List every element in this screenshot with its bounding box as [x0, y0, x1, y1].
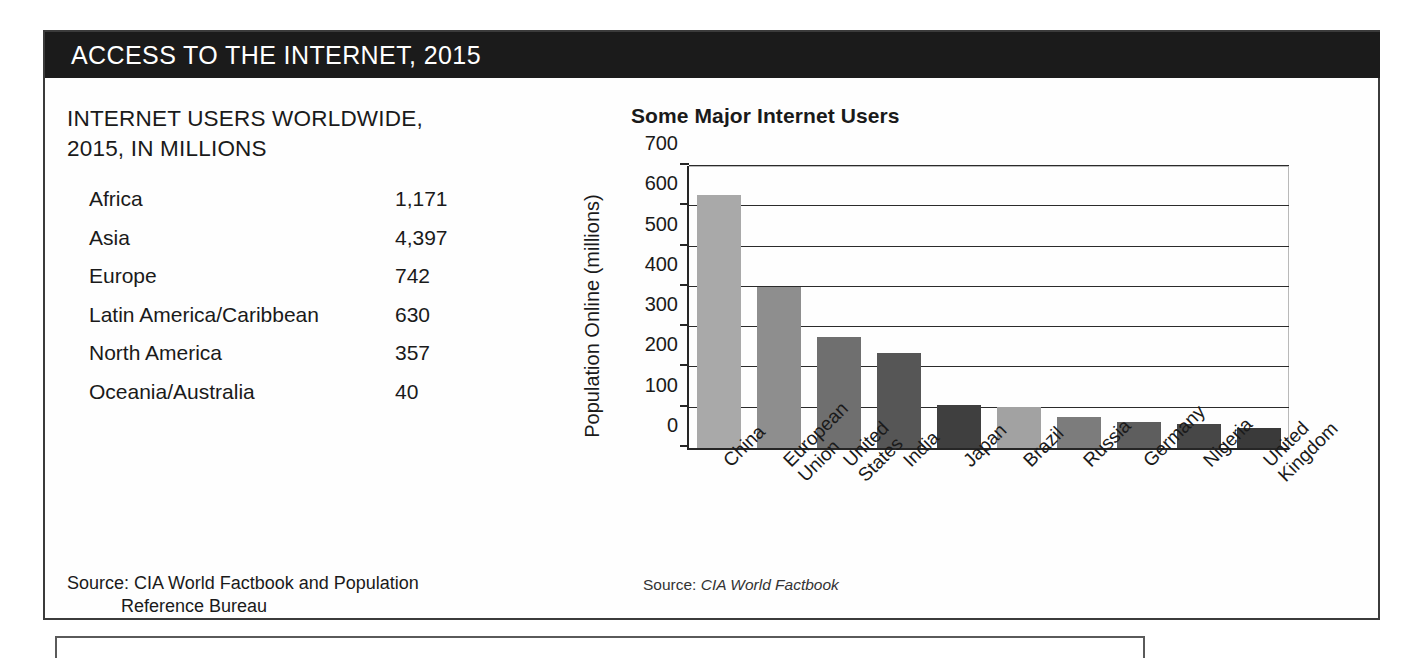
table-cell-region: Asia [89, 219, 130, 258]
bars-group: ChinaEuropean UnionUnited StatesIndiaJap… [689, 166, 1289, 448]
table-cell-value: 742 [395, 257, 430, 296]
bar [697, 195, 741, 448]
table-cell-region: Europe [89, 257, 157, 296]
bar-slot: China [689, 166, 749, 448]
internet-users-table-panel: INTERNET USERS WORLDWIDE, 2015, IN MILLI… [67, 104, 537, 411]
table-title: INTERNET USERS WORLDWIDE, 2015, IN MILLI… [67, 104, 467, 164]
table-cell-value: 1,171 [395, 180, 448, 219]
bar-slot: Brazil [989, 166, 1049, 448]
chart-source-prefix: Source: [643, 576, 701, 593]
table-source-note: Source: CIA World Factbook and Populatio… [67, 572, 497, 618]
table-cell-value: 4,397 [395, 219, 448, 258]
figure-header-bar: ACCESS TO THE INTERNET, 2015 [45, 32, 1380, 78]
y-axis-tick-label: 200 [645, 333, 689, 356]
table-row: Africa1,171 [67, 180, 537, 219]
bar-slot: Russia [1049, 166, 1109, 448]
y-axis-title: Population Online (millions) [581, 174, 605, 458]
bar-chart-panel: Some Major Internet Users Population Onl… [595, 104, 1355, 604]
table-row: Oceania/Australia40 [67, 373, 537, 412]
bar-slot: Japan [929, 166, 989, 448]
chart-title: Some Major Internet Users [631, 104, 1355, 128]
page-title: ACCESS TO THE INTERNET, 2015 [45, 41, 481, 70]
table-cell-value: 357 [395, 334, 430, 373]
y-axis-tick-label: 100 [645, 373, 689, 396]
bar [757, 287, 801, 448]
bar-slot: United Kingdom [1229, 166, 1289, 448]
table-row: North America357 [67, 334, 537, 373]
table-source-line-1: Source: CIA World Factbook and Populatio… [67, 573, 419, 593]
y-axis-tick-label: 0 [667, 414, 689, 437]
table-cell-region: Oceania/Australia [89, 373, 255, 412]
table-body: Africa1,171Asia4,397Europe742Latin Ameri… [67, 180, 537, 411]
chart-source-title: CIA World Factbook [701, 576, 839, 593]
y-axis-tick [680, 405, 689, 407]
table-row: Asia4,397 [67, 219, 537, 258]
table-cell-region: Africa [89, 180, 143, 219]
bar-slot: Germany [1109, 166, 1169, 448]
y-axis-tick [680, 445, 689, 447]
y-axis-tick [680, 324, 689, 326]
table-cell-region: North America [89, 334, 222, 373]
next-figure-box-partial [55, 636, 1145, 658]
x-axis-category-label: United Kingdom [1259, 403, 1342, 486]
y-axis-tick [680, 364, 689, 366]
chart-area: Population Online (millions) 01002003004… [595, 160, 1355, 460]
table-row: Europe742 [67, 257, 537, 296]
table-cell-value: 630 [395, 296, 430, 335]
y-axis-tick [680, 203, 689, 205]
y-axis-tick [680, 163, 689, 165]
y-axis-tick-label: 700 [645, 132, 689, 155]
table-cell-value: 40 [395, 373, 418, 412]
table-source-line-2: Reference Bureau [67, 595, 497, 618]
table-cell-region: Latin America/Caribbean [89, 296, 319, 335]
y-axis-tick-label: 500 [645, 212, 689, 235]
y-axis-tick [680, 244, 689, 246]
y-axis-tick-label: 400 [645, 252, 689, 275]
y-axis-tick-label: 300 [645, 293, 689, 316]
y-axis-tick [680, 284, 689, 286]
chart-source-note: Source: CIA World Factbook [643, 576, 839, 594]
table-row: Latin America/Caribbean630 [67, 296, 537, 335]
plot-area: 0100200300400500600700 ChinaEuropean Uni… [687, 166, 1289, 450]
figure-panel: ACCESS TO THE INTERNET, 2015 INTERNET US… [43, 30, 1380, 620]
bar-slot: European Union [749, 166, 809, 448]
bar-slot: India [869, 166, 929, 448]
y-axis-tick-label: 600 [645, 172, 689, 195]
